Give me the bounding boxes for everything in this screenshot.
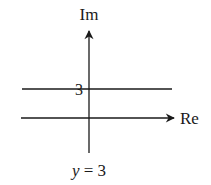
line-equation-label: y = 3 xyxy=(70,161,106,180)
equation-rest: = 3 xyxy=(79,161,106,180)
complex-plane-diagram: Im Re 3 y = 3 xyxy=(0,0,211,185)
imaginary-axis-label: Im xyxy=(80,5,99,24)
intercept-label: 3 xyxy=(75,81,83,98)
real-axis-label: Re xyxy=(180,109,199,128)
equation-variable: y xyxy=(70,161,80,180)
